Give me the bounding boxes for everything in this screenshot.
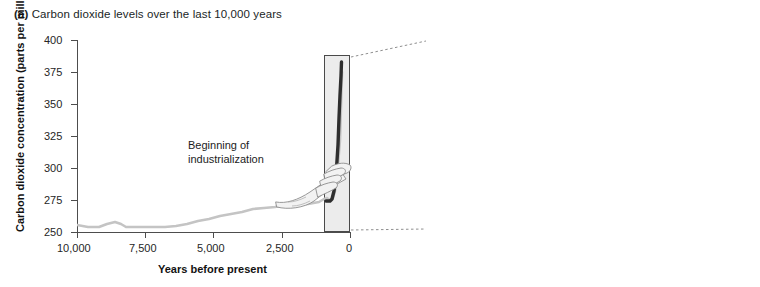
panel-b: (b) A closer look at the last 250 years … — [400, 0, 760, 287]
panel-a-y-axis-title-line2: (parts per million) — [14, 0, 26, 73]
panel-a-ytick-300: 300 — [44, 162, 62, 174]
panel-a-xtick-mark-7500 — [145, 232, 146, 238]
panel-a-ytick-375: 375 — [44, 66, 62, 78]
panel-a-xtick-7500: 7,500 — [129, 242, 157, 254]
industrialization-annotation: Beginning of industrialization — [188, 139, 293, 166]
panel-a-xtick-mark-10000 — [77, 232, 78, 238]
panel-a-ytick-325: 325 — [44, 130, 62, 142]
panel-a-xtick-5000: 5,000 — [197, 242, 225, 254]
annotation-line-2: industrialization — [188, 153, 293, 167]
panel-a-plot-area — [77, 40, 351, 232]
panel-a-xtick-2500: 2,500 — [266, 242, 294, 254]
panel-a-y-axis-title-line1: Carbon dioxide concentration — [14, 76, 26, 232]
panel-a-xtick-10000: 10,000 — [57, 242, 91, 254]
panel-a-title: (a) Carbon dioxide levels over the last … — [14, 8, 282, 20]
panel-a-xtick-mark-2500 — [282, 232, 283, 238]
panel-a-ytick-250: 250 — [44, 226, 62, 238]
panel-a-x-axis-title: Years before present — [158, 263, 267, 275]
panel-a-ytick-275: 275 — [44, 194, 62, 206]
panel-a-xtick-0: 0 — [346, 242, 352, 254]
panel-a: (a) Carbon dioxide levels over the last … — [0, 0, 400, 287]
annotation-line-1: Beginning of — [188, 139, 293, 153]
panel-a-ytick-350: 350 — [44, 98, 62, 110]
panel-a-title-text: Carbon dioxide levels over the last 10,0… — [32, 8, 282, 20]
panel-a-y-axis-title: Carbon dioxide concentration (parts per … — [14, 40, 27, 232]
panel-a-ytick-400: 400 — [44, 34, 62, 46]
panel-a-xtick-mark-5000 — [213, 232, 214, 238]
figure-co2-levels: (a) Carbon dioxide levels over the last … — [0, 0, 760, 287]
panel-a-xtick-mark-0 — [350, 232, 351, 238]
